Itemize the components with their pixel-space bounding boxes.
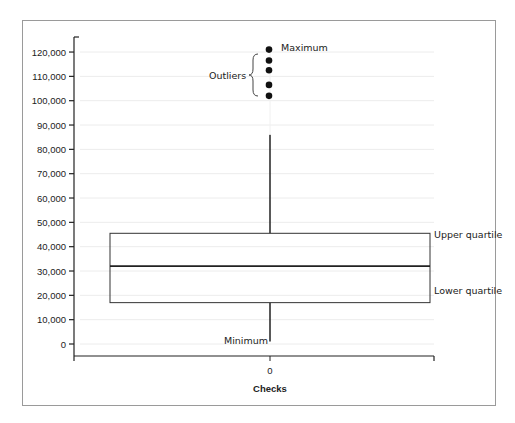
iqr-box <box>110 233 430 302</box>
x-tick-label: 0 <box>267 365 272 376</box>
outlier-point <box>266 67 273 74</box>
y-tick-label: 20,000 <box>37 290 66 301</box>
y-tick-label: 100,000 <box>32 95 66 106</box>
y-tick-label: 0 <box>61 339 66 350</box>
y-tick-label: 110,000 <box>32 71 66 82</box>
annotation-maximum: Maximum <box>281 42 328 53</box>
box-plot-chart: 120,000110,000100,00090,00080,00070,0006… <box>0 0 515 423</box>
y-tick-label: 70,000 <box>37 168 66 179</box>
y-tick-label: 10,000 <box>37 314 66 325</box>
outlier-point <box>266 57 273 64</box>
outlier-point <box>266 46 273 53</box>
y-tick-label: 30,000 <box>37 266 66 277</box>
y-tick-label: 60,000 <box>37 193 66 204</box>
y-axis: 120,000110,000100,00090,00080,00070,0006… <box>32 37 79 356</box>
annotation-outliers: Outliers <box>209 70 246 81</box>
annotation-lower-quartile: Lower quartile <box>434 285 502 296</box>
outlier-point <box>266 93 273 100</box>
x-axis <box>74 356 434 361</box>
x-axis-label: Checks <box>253 383 287 394</box>
box-plot <box>110 135 430 342</box>
y-tick-label: 120,000 <box>32 47 66 58</box>
annotation-minimum: Minimum <box>224 335 268 346</box>
outliers-brace <box>249 54 258 96</box>
outlier-point <box>266 82 273 89</box>
y-tick-label: 50,000 <box>37 217 66 228</box>
annotation-upper-quartile: Upper quartile <box>434 229 503 240</box>
y-tick-label: 90,000 <box>37 120 66 131</box>
y-tick-label: 40,000 <box>37 241 66 252</box>
y-tick-label: 80,000 <box>37 144 66 155</box>
outlier-points <box>266 45 273 135</box>
